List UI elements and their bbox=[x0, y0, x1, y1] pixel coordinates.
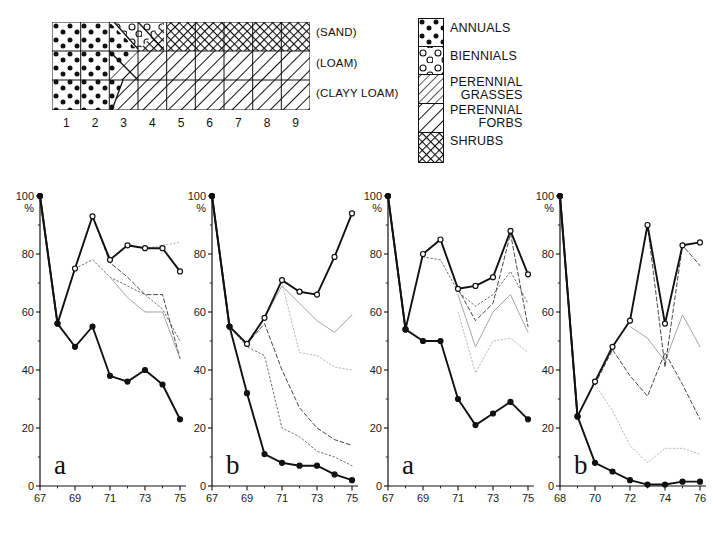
series-marker-annuals bbox=[160, 382, 165, 387]
series-marker-total-upper bbox=[262, 315, 267, 320]
series-marker-total-upper bbox=[628, 318, 633, 323]
x-tick-label: 71 bbox=[276, 492, 288, 504]
pattern-legend: ANNUALSBIENNIALSPERENNIALGRASSESPERENNIA… bbox=[418, 18, 708, 168]
y-tick-label: 0 bbox=[200, 480, 206, 492]
panel-letter: a bbox=[402, 450, 414, 480]
panel-letter: b bbox=[574, 450, 588, 480]
chart-panel-a-left: 020406080100%6769717375a bbox=[8, 182, 186, 534]
series-line-total-upper bbox=[388, 196, 528, 329]
y-axis-unit-label: % bbox=[372, 202, 382, 214]
y-tick-label: 80 bbox=[194, 248, 206, 260]
series-line-cum-shrubs bbox=[648, 225, 701, 367]
series-marker-total-upper bbox=[90, 214, 95, 219]
soil-column-number: 3 bbox=[110, 116, 138, 130]
y-tick-label: 0 bbox=[28, 480, 34, 492]
series-marker-annuals bbox=[143, 368, 148, 373]
panel-letter: b bbox=[226, 450, 240, 480]
series-marker-annuals bbox=[262, 452, 267, 457]
series-marker-total-upper bbox=[456, 286, 461, 291]
series-marker-total-upper bbox=[698, 240, 703, 245]
x-tick-label: 67 bbox=[206, 492, 218, 504]
x-tick-label: 73 bbox=[139, 492, 151, 504]
series-line-cum-forbs bbox=[110, 277, 180, 358]
x-tick-label: 72 bbox=[624, 492, 636, 504]
legend-item-label: SHRUBS bbox=[450, 134, 503, 148]
legend-swatch-column bbox=[418, 18, 444, 168]
legend-item-shrubs[interactable]: SHRUBS bbox=[450, 135, 503, 148]
series-marker-total-upper bbox=[645, 223, 650, 228]
y-tick-label: 60 bbox=[370, 306, 382, 318]
series-marker-annuals bbox=[663, 482, 668, 487]
x-tick-label: 71 bbox=[452, 492, 464, 504]
y-tick-label: 20 bbox=[542, 422, 554, 434]
series-marker-annuals bbox=[628, 478, 633, 483]
soil-column-number: 5 bbox=[167, 116, 195, 130]
series-line-cum-biennials bbox=[595, 385, 700, 463]
y-tick-label: 100 bbox=[188, 190, 206, 202]
series-marker-annuals bbox=[575, 414, 580, 419]
series-line-cum-grasses bbox=[247, 324, 352, 446]
x-tick-label: 69 bbox=[69, 492, 81, 504]
y-axis-unit-label: % bbox=[544, 202, 554, 214]
legend-item-perennial-forbs[interactable]: PERENNIALFORBS bbox=[450, 104, 523, 130]
series-marker-annuals bbox=[645, 482, 650, 487]
x-tick-label: 71 bbox=[104, 492, 116, 504]
series-marker-total-upper bbox=[438, 237, 443, 242]
legend-item-biennials[interactable]: BIENNIALS bbox=[450, 50, 517, 63]
y-tick-label: 80 bbox=[542, 248, 554, 260]
series-marker-total-upper bbox=[143, 246, 148, 251]
series-marker-annuals bbox=[473, 423, 478, 428]
x-tick-label: 73 bbox=[311, 492, 323, 504]
series-marker-total-upper bbox=[680, 243, 685, 248]
y-tick-label: 40 bbox=[22, 364, 34, 376]
series-marker-annuals bbox=[403, 327, 408, 332]
series-marker-annuals bbox=[90, 324, 95, 329]
series-marker-annuals bbox=[227, 324, 232, 329]
series-marker-total-upper bbox=[297, 289, 302, 294]
soil-column-number: 7 bbox=[224, 116, 252, 130]
series-marker-total-upper bbox=[332, 254, 337, 259]
y-tick-label: 80 bbox=[370, 248, 382, 260]
x-tick-label: 74 bbox=[659, 492, 671, 504]
legend-item-annuals[interactable]: ANNUALS bbox=[450, 22, 510, 35]
y-tick-label: 20 bbox=[22, 422, 34, 434]
y-tick-label: 80 bbox=[22, 248, 34, 260]
y-tick-label: 100 bbox=[364, 190, 382, 202]
series-marker-total-upper bbox=[125, 243, 130, 248]
series-marker-annuals bbox=[508, 399, 513, 404]
series-marker-annuals bbox=[558, 194, 563, 199]
legend-item-label: PERENNIAL bbox=[450, 103, 523, 117]
chart-panel-b-right: 020406080100%6870727476b bbox=[528, 182, 706, 534]
series-line-total-upper bbox=[560, 196, 700, 416]
series-line-cum-shrubs bbox=[458, 312, 528, 373]
series-marker-total-upper bbox=[663, 321, 668, 326]
series-marker-annuals bbox=[491, 411, 496, 416]
soil-column-number: 6 bbox=[196, 116, 224, 130]
y-tick-label: 100 bbox=[16, 190, 34, 202]
series-line-annuals bbox=[40, 196, 180, 419]
series-marker-total-upper bbox=[473, 283, 478, 288]
y-tick-label: 100 bbox=[536, 190, 554, 202]
series-marker-total-upper bbox=[245, 341, 250, 346]
series-marker-annuals bbox=[386, 194, 391, 199]
series-marker-annuals bbox=[297, 463, 302, 468]
series-marker-total-upper bbox=[421, 252, 426, 257]
series-line-total-upper bbox=[212, 196, 352, 344]
soil-column-number: 8 bbox=[253, 116, 281, 130]
y-axis-unit-label: % bbox=[196, 202, 206, 214]
series-marker-annuals bbox=[280, 460, 285, 465]
x-tick-label: 73 bbox=[487, 492, 499, 504]
series-marker-annuals bbox=[698, 479, 703, 484]
series-marker-total-upper bbox=[315, 292, 320, 297]
series-marker-total-upper bbox=[160, 246, 165, 251]
y-tick-label: 40 bbox=[370, 364, 382, 376]
soil-column-number: 9 bbox=[282, 116, 310, 130]
x-tick-label: 76 bbox=[694, 492, 706, 504]
series-marker-annuals bbox=[350, 478, 355, 483]
chart-panel-a-right: 020406080100%6769717375a bbox=[356, 182, 534, 534]
series-marker-total-upper bbox=[491, 275, 496, 280]
legend-item-perennial-grasses[interactable]: PERENNIALGRASSES bbox=[450, 76, 523, 102]
soil-texture-diagram bbox=[52, 22, 310, 110]
series-marker-total-upper bbox=[350, 211, 355, 216]
series-marker-annuals bbox=[38, 194, 43, 199]
